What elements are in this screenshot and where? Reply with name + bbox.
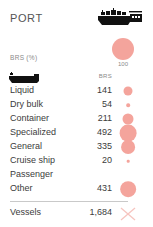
legend-bubble-max xyxy=(112,38,134,60)
row-value: 492 xyxy=(62,127,112,137)
row-label: Container xyxy=(10,113,49,123)
row-bubble xyxy=(127,160,130,163)
table-body: Liquid141Dry bulk54Container211Specializ… xyxy=(0,84,153,196)
row-label: Dry bulk xyxy=(10,99,43,109)
footer-total-vessels: 1,684 xyxy=(62,207,112,217)
axis-label-brs: BRS (%) xyxy=(10,54,37,61)
column-header-brs: BRS xyxy=(62,73,112,79)
footer-divider xyxy=(10,201,128,202)
row-value: 141 xyxy=(62,85,112,95)
vessel-type-table: BRS Liquid141Dry bulk54Container211Speci… xyxy=(0,70,153,196)
row-label: Specialized xyxy=(10,127,56,137)
footer-label-vessels: Vessels xyxy=(10,207,41,217)
x-mark-icon xyxy=(119,206,137,222)
row-bubble-cell xyxy=(118,126,138,140)
row-label: Other xyxy=(10,183,33,193)
row-bubble xyxy=(121,140,135,154)
cargo-ship-icon xyxy=(96,8,144,28)
row-bubble-cell xyxy=(118,182,138,196)
panel-header: PORT xyxy=(0,0,153,36)
row-value: 54 xyxy=(62,99,112,109)
row-bubble xyxy=(124,87,133,96)
row-value: 20 xyxy=(62,155,112,165)
port-summary-panel: PORT xyxy=(0,0,153,227)
row-bubble xyxy=(120,125,137,142)
row-label: Passenger xyxy=(10,169,53,179)
row-value: 335 xyxy=(62,141,112,151)
row-bubble xyxy=(120,181,136,197)
row-value: 431 xyxy=(62,183,112,193)
row-value: 211 xyxy=(62,113,112,123)
row-bubble-cell xyxy=(118,98,138,112)
legend-max-value: 100 xyxy=(104,61,142,67)
tanker-vessel-icon xyxy=(8,70,42,82)
table-header-row: BRS xyxy=(0,70,153,84)
row-bubble-cell xyxy=(118,84,138,98)
table-row[interactable]: Other431 xyxy=(0,182,153,196)
row-bubble xyxy=(126,103,130,107)
row-bubble-cell xyxy=(118,140,138,154)
row-bubble xyxy=(123,114,134,125)
row-bubble-cell xyxy=(118,168,138,182)
row-label: Liquid xyxy=(10,85,34,95)
row-label: General xyxy=(10,141,42,151)
table-row[interactable]: Passenger xyxy=(0,168,153,182)
legend: 100 BRS (%) xyxy=(0,36,153,68)
table-row[interactable]: Dry bulk54 xyxy=(0,98,153,112)
row-label: Cruise ship xyxy=(10,155,55,165)
table-row[interactable]: Specialized492 xyxy=(0,126,153,140)
row-bubble-cell xyxy=(118,154,138,168)
table-row[interactable]: General335 xyxy=(0,140,153,154)
table-row[interactable]: Cruise ship20 xyxy=(0,154,153,168)
table-footer-row: Vessels 1,684 xyxy=(0,205,153,223)
page-title: PORT xyxy=(10,12,43,24)
table-row[interactable]: Liquid141 xyxy=(0,84,153,98)
